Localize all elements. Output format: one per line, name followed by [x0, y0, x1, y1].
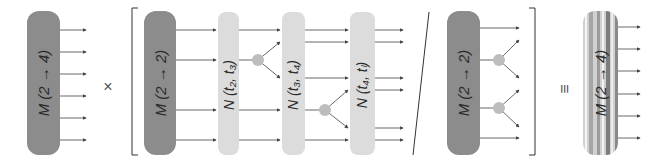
n-t4-tl-block: N (t₄, tₗ) — [350, 12, 375, 155]
lhs-m-2-to-4-label: M (2 → 4) — [35, 50, 52, 117]
n3-output-arrows — [375, 30, 403, 140]
lhs-output-arrows — [60, 30, 86, 140]
times-operator: × — [103, 78, 112, 95]
n-t4-tl-label: N (t₄, tₗ) — [354, 62, 370, 109]
split-vertex-4 — [493, 102, 505, 114]
rhs-output-arrows — [618, 27, 640, 138]
rhs-m-2-to-4-label: M (2 → 4) — [592, 50, 609, 117]
lhs-m-2-to-4-block: M (2 → 4) — [27, 11, 60, 155]
n1-to-n2-connections — [239, 30, 280, 140]
divide-slash — [413, 12, 429, 155]
n-t3-t4-label: N (t₃, t₄) — [285, 60, 301, 110]
equiv-operator: ≡ — [556, 84, 573, 93]
n2-to-n3-connections — [305, 30, 348, 140]
bracket-m-2-to-2-block: M (2 → 2) — [144, 11, 176, 155]
right-bracket — [529, 8, 535, 155]
split-vertex-1 — [252, 54, 264, 66]
rhs-m-2-to-4-block: M (2 → 4) — [583, 11, 618, 155]
denominator-output-arrows — [480, 28, 519, 138]
denominator-m-2-to-2-label: M (2 → 2) — [455, 50, 472, 117]
denominator-m-2-to-2-block: M (2 → 2) — [447, 11, 480, 155]
m22-to-n1-arrows — [176, 30, 216, 140]
split-vertex-3 — [493, 54, 505, 66]
bracket-m-2-to-2-label: M (2 → 2) — [152, 50, 169, 117]
factorization-diagram: M (2 → 4) × M (2 → 2) N (t₂, t₃) — [0, 0, 664, 163]
n-t3-t4-block: N (t₃, t₄) — [282, 12, 305, 155]
n-t2-t3-block: N (t₂, t₃) — [218, 12, 239, 155]
split-vertex-2 — [319, 104, 331, 116]
n-t2-t3-label: N (t₂, t₃) — [221, 60, 237, 110]
left-bracket — [132, 8, 138, 155]
